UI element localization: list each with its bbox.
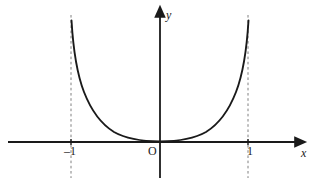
y-axis-label: y: [166, 9, 171, 21]
origin-label: O: [148, 145, 157, 157]
x-axis-label: x: [301, 147, 306, 159]
x-tick-label-positive-one: 1: [238, 145, 262, 157]
x-tick-label-negative-one: –1: [58, 145, 82, 157]
graph-figure: y x O –1 1: [0, 0, 315, 183]
plot-canvas: [0, 0, 315, 183]
